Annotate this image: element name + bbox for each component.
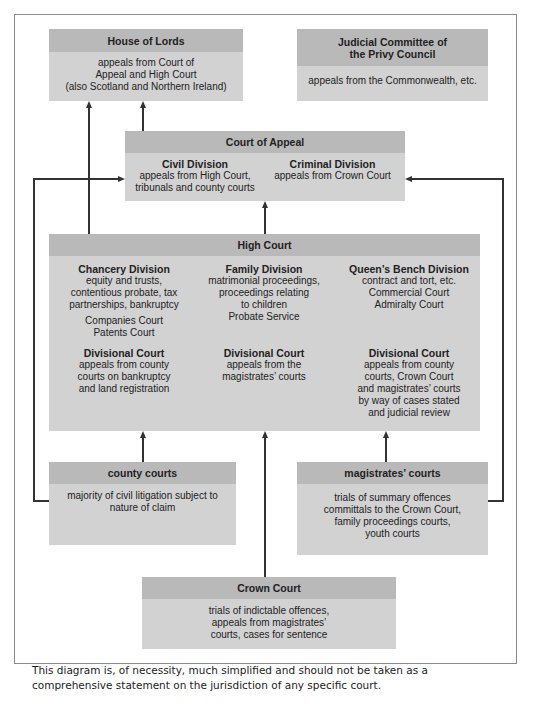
civil-division: Civil Division appeals from High Court, … bbox=[125, 158, 265, 194]
connector-line bbox=[142, 107, 144, 131]
criminal-division: Criminal Division appeals from Crown Cou… bbox=[265, 158, 400, 182]
queens-bench-division-body: contract and tort, etc. Commercial Court… bbox=[362, 275, 456, 310]
connector-line bbox=[33, 178, 35, 502]
county-courts-body: majority of civil litigation subject to … bbox=[49, 484, 236, 514]
family-division: Family Division matrimonial proceedings,… bbox=[194, 263, 334, 323]
crown-court-title: Crown Court bbox=[142, 577, 396, 599]
divisional-court-family-title: Divisional Court bbox=[194, 347, 334, 359]
arrow-up-icon bbox=[262, 431, 268, 438]
arrow-up-icon bbox=[262, 201, 268, 208]
connector-line bbox=[264, 437, 266, 577]
divisional-court-family: Divisional Court appeals from the magist… bbox=[194, 347, 334, 383]
divisional-court-chancery-body: appeals from county courts on bankruptcy… bbox=[78, 359, 171, 394]
chancery-division-courts: Companies Court Patents Court bbox=[49, 315, 199, 339]
arrow-left-icon bbox=[405, 176, 412, 182]
chancery-division-body: equity and trusts, contentious probate, … bbox=[69, 275, 179, 310]
crown-court-body: trials of indictable offences, appeals f… bbox=[142, 599, 396, 641]
family-division-title: Family Division bbox=[194, 263, 334, 275]
arrow-up-icon bbox=[140, 101, 146, 108]
magistrates-courts-box: magistrates’ courts trials of summary of… bbox=[297, 462, 488, 555]
high-court-box: High Court Chancery Division equity and … bbox=[49, 234, 480, 431]
divisional-court-qb: Divisional Court appeals from county cou… bbox=[339, 347, 479, 419]
magistrates-courts-body: trials of summary offences committals to… bbox=[297, 484, 488, 540]
arrow-up-icon bbox=[140, 431, 146, 438]
chancery-division-title: Chancery Division bbox=[49, 263, 199, 275]
court-of-appeal-box: Court of Appeal Civil Division appeals f… bbox=[125, 131, 405, 201]
footnote: This diagram is, of necessity, much simp… bbox=[32, 663, 492, 693]
arrow-up-icon bbox=[383, 431, 389, 438]
connector-line bbox=[502, 178, 504, 502]
criminal-division-title: Criminal Division bbox=[265, 158, 400, 170]
divisional-court-qb-body: appeals from county courts, Crown Court … bbox=[357, 359, 460, 418]
connector-line bbox=[412, 178, 504, 180]
county-courts-title: county courts bbox=[49, 462, 236, 484]
high-court-title: High Court bbox=[49, 234, 480, 256]
connector-line bbox=[488, 500, 504, 502]
divisional-court-family-body: appeals from the magistrates’ courts bbox=[222, 359, 306, 382]
arrow-up-icon bbox=[86, 101, 92, 108]
civil-division-title: Civil Division bbox=[125, 158, 265, 170]
connector-line bbox=[88, 107, 90, 234]
county-courts-box: county courts majority of civil litigati… bbox=[49, 462, 236, 545]
divisional-court-chancery: Divisional Court appeals from county cou… bbox=[49, 347, 199, 395]
privy-council-title: Judicial Committee of the Privy Council bbox=[297, 29, 488, 66]
connector-line bbox=[33, 500, 49, 502]
crown-court-box: Crown Court trials of indictable offence… bbox=[142, 577, 396, 649]
family-division-body: matrimonial proceedings, proceedings rel… bbox=[208, 275, 320, 322]
divisional-court-qb-title: Divisional Court bbox=[339, 347, 479, 359]
civil-division-body: appeals from High Court, tribunals and c… bbox=[135, 170, 255, 193]
privy-council-body: appeals from the Commonwealth, etc. bbox=[297, 66, 488, 87]
arrow-right-icon bbox=[118, 176, 125, 182]
connector-line bbox=[33, 178, 119, 180]
connector-line bbox=[264, 207, 266, 234]
criminal-division-body: appeals from Crown Court bbox=[274, 170, 391, 181]
privy-council-box: Judicial Committee of the Privy Council … bbox=[297, 29, 488, 101]
house-of-lords-body: appeals from Court of Appeal and High Co… bbox=[49, 52, 243, 93]
house-of-lords-box: House of Lords appeals from Court of App… bbox=[49, 29, 243, 101]
connector-line bbox=[142, 437, 144, 462]
magistrates-courts-title: magistrates’ courts bbox=[297, 462, 488, 484]
connector-line bbox=[385, 437, 387, 462]
queens-bench-division-title: Queen’s Bench Division bbox=[339, 263, 479, 275]
court-of-appeal-title: Court of Appeal bbox=[125, 131, 405, 153]
queens-bench-division: Queen’s Bench Division contract and tort… bbox=[339, 263, 479, 311]
divisional-court-chancery-title: Divisional Court bbox=[49, 347, 199, 359]
house-of-lords-title: House of Lords bbox=[49, 29, 243, 52]
chancery-division: Chancery Division equity and trusts, con… bbox=[49, 263, 199, 339]
